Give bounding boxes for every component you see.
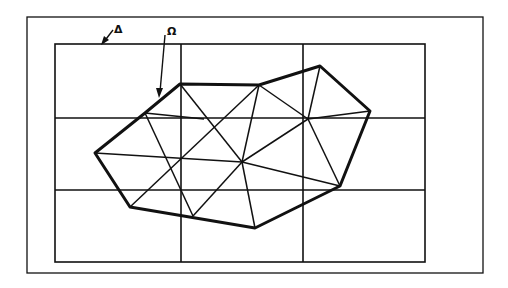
grid-delta bbox=[55, 44, 425, 262]
triangulation-edge bbox=[242, 162, 255, 228]
triangulation-diagram: Δ Ω bbox=[0, 0, 508, 288]
triangulation-edge bbox=[308, 119, 340, 186]
triangulation-edge bbox=[242, 85, 259, 162]
omega-label: Ω bbox=[167, 25, 177, 38]
triangulation-edge bbox=[193, 162, 242, 216]
delta-label: Δ bbox=[114, 23, 123, 36]
grid-border bbox=[55, 44, 425, 262]
triangulation-edge bbox=[95, 153, 242, 162]
triangulation-edge bbox=[242, 162, 340, 186]
triangulation-edge bbox=[242, 119, 308, 162]
delta-arrow bbox=[101, 30, 113, 45]
triangulation-edge bbox=[259, 85, 308, 119]
triangulation-edge bbox=[145, 113, 193, 216]
triangulation-edges bbox=[95, 66, 370, 228]
domain-omega-boundary bbox=[95, 66, 370, 228]
outer-frame bbox=[27, 17, 483, 273]
triangulation-edge bbox=[308, 66, 320, 119]
